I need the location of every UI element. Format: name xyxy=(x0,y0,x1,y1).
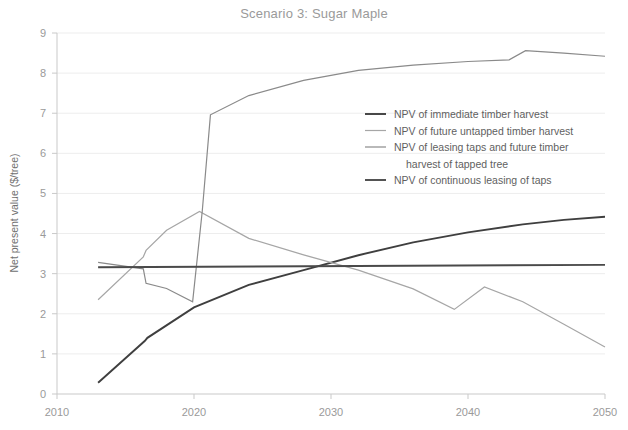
legend-label: NPV of continuous leasing of taps xyxy=(394,174,552,186)
npv-line-chart: Scenario 3: Sugar Maple 0123456789 20102… xyxy=(0,0,628,430)
legend-label: NPV of future untapped timber harvest xyxy=(394,125,573,137)
y-tick-label: 9 xyxy=(40,27,46,39)
legend-label: harvest of tapped tree xyxy=(406,158,508,170)
y-tick-label: 8 xyxy=(40,67,46,79)
x-tick-label: 2050 xyxy=(593,406,617,418)
x-tick-label: 2010 xyxy=(45,406,69,418)
x-tick-label: 2020 xyxy=(182,406,206,418)
y-tick-label: 4 xyxy=(40,228,46,240)
chart-legend: NPV of immediate timber harvestNPV of fu… xyxy=(365,108,573,186)
y-tick-label: 1 xyxy=(40,348,46,360)
legend-label: NPV of leasing taps and future timber xyxy=(394,141,569,153)
legend-label: NPV of immediate timber harvest xyxy=(394,108,548,120)
chart-background xyxy=(0,0,628,430)
y-tick-label: 7 xyxy=(40,107,46,119)
y-tick-label: 2 xyxy=(40,308,46,320)
x-tick-label: 2030 xyxy=(319,406,343,418)
y-tick-label: 0 xyxy=(40,388,46,400)
y-axis-title: Net present value ($/tree) xyxy=(8,153,20,272)
x-tick-label: 2040 xyxy=(456,406,480,418)
chart-title: Scenario 3: Sugar Maple xyxy=(240,6,388,21)
y-tick-label: 6 xyxy=(40,147,46,159)
chart-container: Scenario 3: Sugar Maple 0123456789 20102… xyxy=(0,0,628,430)
y-tick-label: 3 xyxy=(40,268,46,280)
y-tick-label: 5 xyxy=(40,187,46,199)
